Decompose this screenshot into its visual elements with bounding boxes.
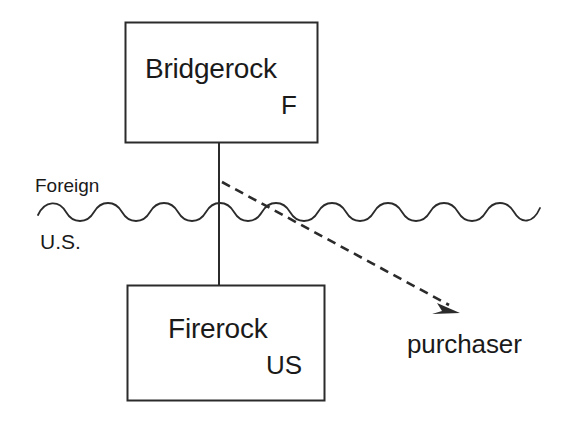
node-label-purchaser: purchaser (407, 331, 522, 357)
diagram-canvas: Bridgerock F Firerock US Foreign U.S. pu… (0, 0, 574, 428)
border-label-us: U.S. (40, 231, 81, 252)
entity-label-bridgerock: Bridgerock (145, 55, 277, 83)
entity-jurisdiction-firerock: US (266, 352, 302, 378)
entity-label-firerock: Firerock (168, 315, 268, 343)
entity-jurisdiction-bridgerock: F (281, 92, 297, 118)
diagram-text-layer: Bridgerock F Firerock US Foreign U.S. pu… (0, 0, 574, 428)
border-label-foreign: Foreign (35, 176, 99, 195)
